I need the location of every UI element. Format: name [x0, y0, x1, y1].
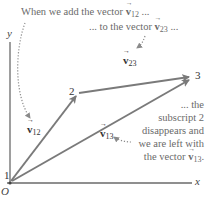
vector-v23 — [79, 77, 189, 93]
y-axis-label: y — [7, 28, 12, 39]
point-label-2: 2 — [69, 86, 75, 97]
vector-label-v23: v23 — [123, 55, 137, 68]
annotation-line-last: the vector v13. — [138, 150, 204, 166]
vector-symbol-v12: v12 — [126, 6, 139, 17]
dotted-pointer-v13 — [114, 137, 131, 142]
annotation-when-add: When we add the vector v12 ... — [21, 7, 149, 19]
vector-label-v12: v12 — [27, 124, 41, 137]
annotation-line: ... the — [138, 98, 204, 111]
point-label-1: 1 — [4, 170, 10, 181]
origin-label: O — [1, 186, 9, 197]
point-label-3: 3 — [195, 70, 201, 81]
annotation-line: disappears and — [138, 124, 204, 137]
annotation-line: subscript 2 — [138, 111, 204, 124]
vector-symbol-v13: v13 — [188, 151, 201, 162]
x-axis-label: x — [195, 176, 200, 187]
annotation-to-vector: ... to the vector v23 ... — [89, 22, 178, 34]
dotted-pointer-v12 — [18, 23, 30, 118]
vector-addition-diagram: When we add the vector v12 ... ... to th… — [0, 0, 207, 204]
annotation-subscript-disappears: ... the subscript 2 disappears and we ar… — [138, 98, 204, 166]
vector-v12 — [11, 96, 76, 181]
vector-label-v13: v13 — [100, 128, 114, 141]
dotted-pointer-v23 — [137, 36, 145, 48]
vector-symbol-v23: v23 — [155, 21, 168, 32]
